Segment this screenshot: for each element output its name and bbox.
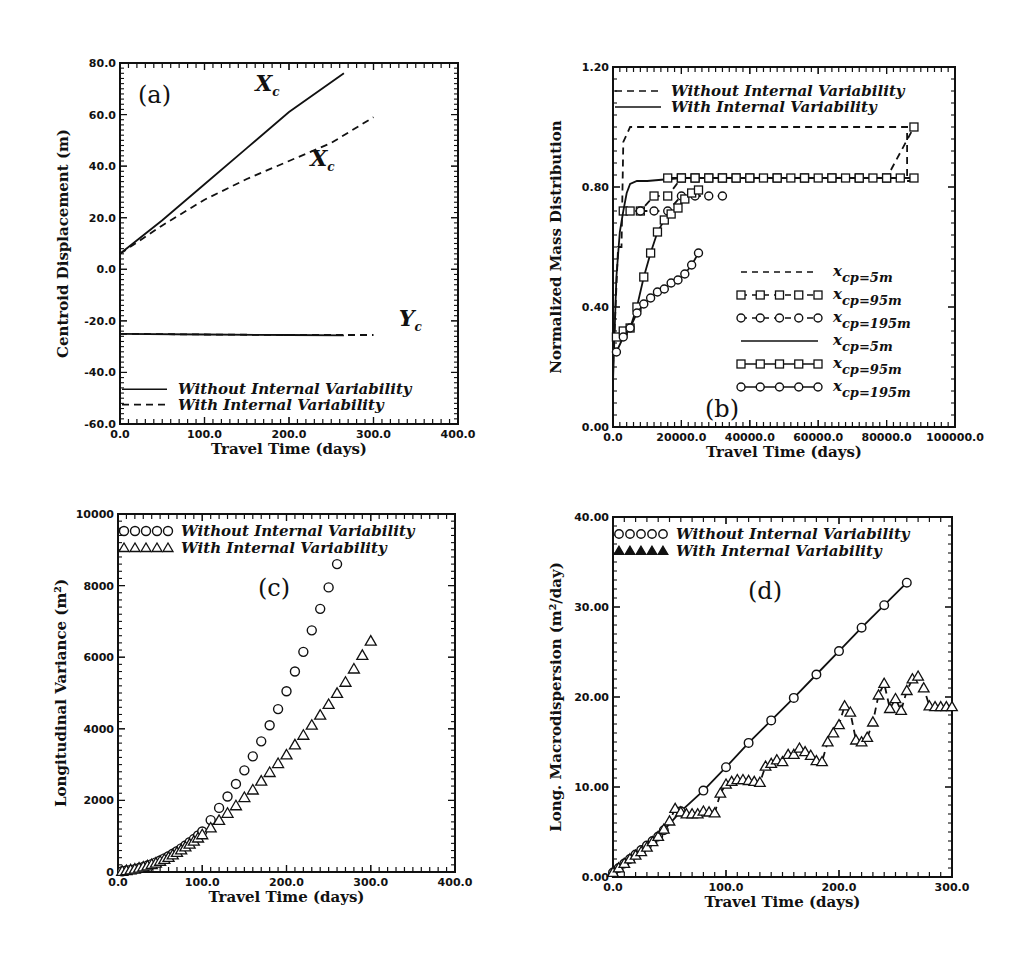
y-tick-label: 10.00 — [574, 781, 609, 794]
triangle-marker-icon — [247, 785, 258, 795]
plot-frame — [120, 63, 458, 424]
circle-marker-icon — [756, 314, 764, 322]
square-marker-icon — [737, 291, 745, 299]
triangle-marker-icon — [902, 685, 913, 694]
square-marker-icon — [677, 174, 685, 182]
circle-marker-icon — [835, 647, 844, 656]
y-tick-label: 2000 — [83, 794, 114, 807]
panel-c: 0.0100.0200.0300.0400.002000400060008000… — [52, 508, 473, 906]
legend-label: xcp=195m — [832, 377, 911, 400]
plot-frame — [613, 67, 955, 427]
circle-marker-icon — [756, 383, 764, 391]
square-marker-icon — [855, 174, 863, 182]
circle-marker-icon — [240, 766, 249, 775]
y-tick-label: 20.0 — [89, 212, 116, 225]
square-marker-icon — [626, 207, 634, 215]
legend-label: With Internal Variability — [676, 542, 883, 560]
square-marker-icon — [814, 360, 822, 368]
circle-marker-icon — [636, 207, 644, 215]
circle-marker-icon — [718, 192, 726, 200]
triangle-marker-icon — [715, 788, 726, 797]
y-tick-label: 40.00 — [574, 511, 609, 524]
x-axis-title: Travel Time (days) — [209, 888, 365, 906]
panel-d: 0.0100.0200.0300.00.0010.0020.0030.0040.… — [547, 511, 970, 911]
circle-marker-icon — [282, 687, 291, 696]
circle-marker-icon — [812, 670, 821, 679]
circle-marker-icon — [814, 314, 822, 322]
triangle-marker-icon — [918, 683, 929, 692]
circle-marker-icon — [265, 721, 274, 730]
circle-marker-icon — [633, 309, 641, 317]
square-marker-icon — [691, 174, 699, 182]
circle-marker-icon — [164, 527, 173, 536]
y-tick-label: 0.00 — [582, 871, 609, 884]
x-tick-label: 400.0 — [438, 876, 473, 889]
curve-annotation: Yc — [399, 305, 423, 334]
x-axis-title: Travel Time (days) — [705, 893, 861, 911]
square-marker-icon — [664, 192, 672, 200]
circle-marker-icon — [659, 530, 667, 538]
legend-label: With Internal Variability — [178, 396, 385, 414]
y-tick-label: -40.0 — [84, 366, 116, 379]
panel-label-c: (c) — [258, 574, 290, 602]
triangle-marker-icon — [323, 699, 334, 709]
circle-marker-icon — [737, 314, 745, 322]
triangle-marker-icon — [885, 703, 896, 712]
triangle-marker-icon — [896, 705, 907, 714]
circle-marker-icon — [767, 716, 776, 725]
triangle-marker-icon — [839, 701, 850, 710]
triangle-marker-icon — [890, 694, 901, 703]
triangle-marker-icon — [879, 678, 890, 687]
square-marker-icon — [737, 360, 745, 368]
y-axis-title: Centroid Displacement (m) — [54, 129, 72, 358]
y-tick-label: -60.0 — [84, 418, 116, 431]
square-marker-icon — [674, 204, 682, 212]
x-axis-title: Travel Time (days) — [211, 440, 367, 458]
square-marker-icon — [773, 174, 781, 182]
circle-marker-icon — [650, 207, 658, 215]
triangle-marker-icon — [658, 546, 668, 554]
y-tick-label: 4000 — [83, 723, 114, 736]
triangle-marker-icon — [834, 720, 845, 729]
panel-label-b: (b) — [705, 395, 739, 423]
y-tick-label: -20.0 — [84, 315, 116, 328]
circle-marker-icon — [248, 752, 257, 761]
square-marker-icon — [869, 174, 877, 182]
square-marker-icon — [795, 360, 803, 368]
y-tick-label: 8000 — [83, 580, 114, 593]
circle-marker-icon — [776, 314, 784, 322]
triangle-marker-icon — [289, 739, 300, 749]
legend-label: With Internal Variability — [671, 98, 878, 116]
circle-marker-icon — [274, 705, 283, 714]
square-marker-icon — [718, 174, 726, 182]
legend-label: With Internal Variability — [181, 539, 388, 557]
circle-marker-icon — [705, 192, 713, 200]
circle-marker-icon — [640, 300, 648, 308]
panel-label-d: (d) — [748, 577, 782, 605]
triangle-marker-icon — [163, 543, 173, 552]
triangle-marker-icon — [332, 688, 343, 698]
circle-marker-icon — [722, 763, 731, 772]
y-tick-label: 1.20 — [582, 61, 609, 74]
legend-label: xcp=5m — [832, 331, 893, 354]
y-tick-label: 0 — [106, 866, 114, 879]
square-marker-icon — [756, 291, 764, 299]
y-tick-label: 0.00 — [582, 421, 609, 434]
triangle-marker-icon — [647, 546, 657, 554]
circle-marker-icon — [795, 314, 803, 322]
circle-marker-icon — [814, 383, 822, 391]
panel-label-a: (a) — [138, 81, 171, 109]
circle-marker-icon — [857, 623, 866, 632]
triangle-marker-icon — [264, 767, 275, 777]
triangle-marker-icon — [862, 732, 873, 741]
triangle-marker-icon — [298, 730, 309, 740]
circle-marker-icon — [307, 626, 316, 635]
square-marker-icon — [705, 174, 713, 182]
series-line — [120, 117, 374, 254]
y-tick-label: 80.0 — [89, 57, 116, 70]
y-tick-label: 0.80 — [582, 181, 609, 194]
legend-label: Without Internal Variability — [181, 522, 416, 540]
series-line — [613, 127, 914, 367]
circle-marker-icon — [744, 739, 753, 748]
square-marker-icon — [776, 291, 784, 299]
